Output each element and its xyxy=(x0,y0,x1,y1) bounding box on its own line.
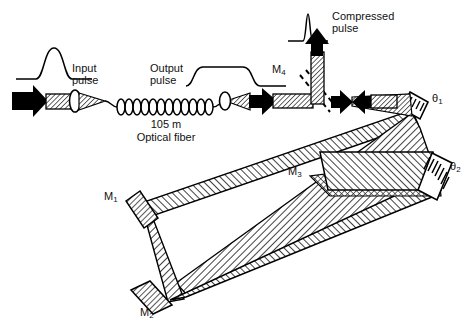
optical-fiber-coil xyxy=(117,99,213,115)
fiber-length-label: 105 m xyxy=(118,118,214,130)
theta1-label: θ1 xyxy=(432,92,443,108)
input-beam xyxy=(46,94,72,109)
input-arrow xyxy=(12,85,48,117)
mirror-m4-label: M4 xyxy=(272,63,286,79)
compressed-up-arrow xyxy=(305,28,329,56)
theta2-label: θ2 xyxy=(450,160,461,176)
mirror-m1-label: M1 xyxy=(104,190,118,206)
input-pulse-label: Input pulse xyxy=(72,62,98,86)
fiber-name-label: Optical fiber xyxy=(110,131,222,143)
beam-compressed-vertical xyxy=(311,52,324,104)
beam-lens2-to-m4 xyxy=(273,94,313,108)
beam-to-grating1 xyxy=(371,95,397,108)
output-pulse-label: Output pulse xyxy=(150,62,183,86)
mirror-m2-label: M2 xyxy=(140,306,154,322)
beam-focus-into-fiber xyxy=(79,93,105,110)
output-pulse-waveform xyxy=(186,67,286,86)
arrow-to-grating1 xyxy=(331,90,353,114)
mirror-m3-label: M3 xyxy=(288,165,302,181)
figure-canvas: Input pulse Output pulse Compressed puls… xyxy=(0,0,469,328)
compressed-pulse-label: Compressed pulse xyxy=(332,10,394,34)
optical-schematic-svg xyxy=(0,0,469,328)
lens-2-shape[interactable] xyxy=(220,92,231,110)
